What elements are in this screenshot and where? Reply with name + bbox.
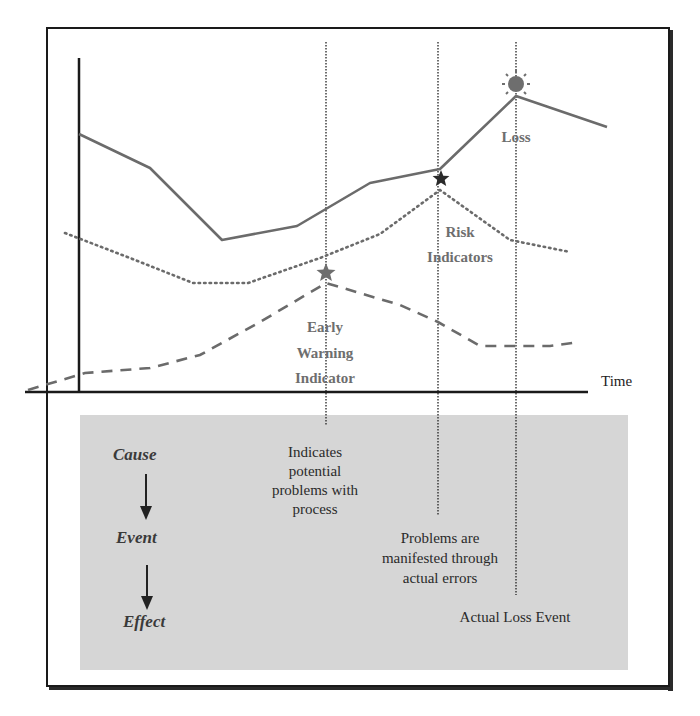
early-warning-label-line2: Warning xyxy=(280,344,370,363)
early-warning-desc-line1: Indicates xyxy=(250,443,380,462)
loss-desc-line1: Actual Loss Event xyxy=(430,608,600,627)
early-warning-label-line1: Early xyxy=(280,318,370,337)
early-warning-label-line3: Indicator xyxy=(270,369,380,388)
risk-star-icon xyxy=(433,170,450,186)
chain-event-label: Event xyxy=(116,528,157,548)
loss-label: Loss xyxy=(478,128,554,147)
risk-indicators-label-line2: Indicators xyxy=(405,248,515,267)
arrow-event-to-effect-icon xyxy=(141,565,153,610)
early-warning-desc-line3: problems with xyxy=(250,481,380,500)
chain-cause-label: Cause xyxy=(113,445,156,465)
x-axis-label: Time xyxy=(601,373,632,390)
risk-desc-line3: actual errors xyxy=(370,569,510,588)
chain-effect-label: Effect xyxy=(123,612,165,632)
early-warning-desc-line4: process xyxy=(250,500,380,519)
early-warning-desc-line2: potential xyxy=(250,462,380,481)
arrow-cause-to-event-icon xyxy=(140,474,152,520)
risk-desc-line2: manifested through xyxy=(370,549,510,568)
risk-indicators-label-line1: Risk xyxy=(420,223,500,242)
early-warning-star-icon xyxy=(317,263,336,281)
risk-desc-line1: Problems are xyxy=(370,529,510,548)
loss-line xyxy=(79,96,607,240)
